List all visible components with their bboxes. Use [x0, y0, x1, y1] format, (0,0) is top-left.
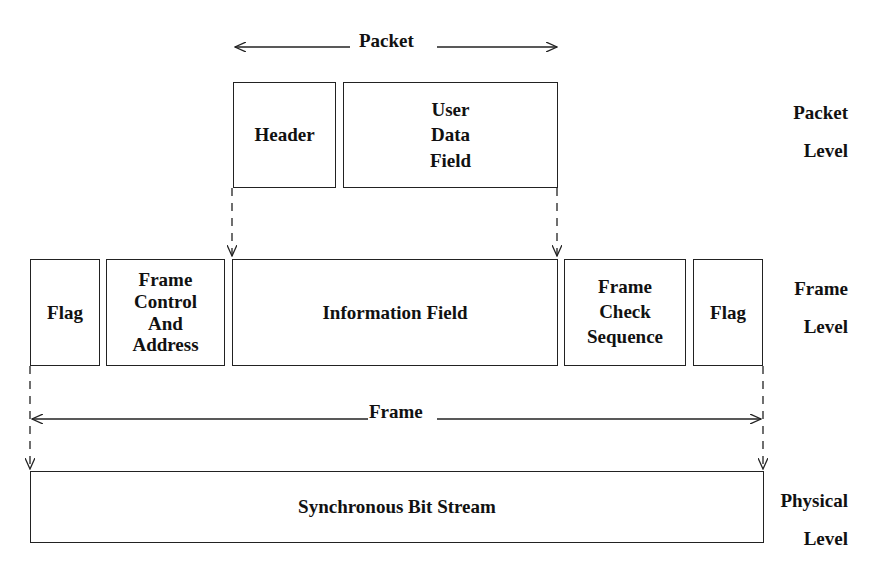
- frame-level-label: Frame Level: [770, 270, 848, 346]
- frame-span-label: Frame: [369, 402, 423, 421]
- flag-start-box: Flag: [30, 259, 100, 366]
- packet-span-label: Packet: [359, 31, 414, 50]
- physical-level-label: Physical Level: [760, 482, 848, 558]
- synchronous-bit-stream-box: Synchronous Bit Stream: [30, 471, 764, 543]
- header-box: Header: [233, 82, 336, 188]
- information-field-box: Information Field: [232, 259, 558, 366]
- packet-level-label: Packet Level: [760, 94, 848, 170]
- flag-end-box: Flag: [693, 259, 763, 366]
- frame-control-address-box: Frame Control And Address: [106, 259, 225, 366]
- frame-check-sequence-box: Frame Check Sequence: [564, 259, 686, 366]
- user-data-field-box: User Data Field: [343, 82, 558, 188]
